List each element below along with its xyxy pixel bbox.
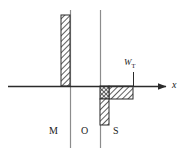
depletion-width-symbol: W	[124, 57, 132, 67]
depletion-width-label: WT	[124, 58, 135, 69]
depletion-charge-block	[109, 86, 133, 99]
region-label-oxide: O	[81, 126, 88, 136]
inversion-charge-block	[100, 86, 109, 99]
region-label-semiconductor: S	[113, 126, 119, 136]
depletion-width-subscript: T	[132, 62, 136, 69]
region-label-metal: M	[49, 126, 58, 136]
inversion-tail-bar	[100, 99, 109, 125]
diagram-canvas	[0, 0, 186, 158]
mos-charge-distribution-figure: WT x M O S	[0, 0, 186, 158]
metal-charge-bar	[61, 15, 70, 86]
x-axis-label: x	[172, 80, 176, 90]
